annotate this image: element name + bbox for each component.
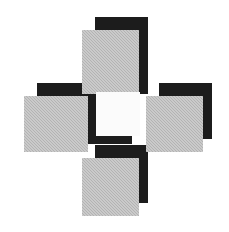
top-arm-face bbox=[82, 30, 139, 94]
bottom-arm-face bbox=[82, 158, 139, 216]
left-arm-face bbox=[24, 96, 88, 152]
right-arm-face bbox=[146, 96, 203, 152]
plus-shape-figure bbox=[0, 0, 229, 232]
center-square-face bbox=[96, 92, 140, 136]
